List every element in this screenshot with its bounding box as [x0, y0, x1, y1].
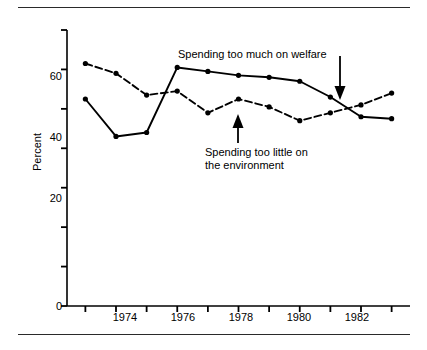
annotation-arrows — [233, 56, 346, 143]
y-axis-ticks — [61, 30, 67, 306]
arrow-welfare — [335, 56, 346, 100]
arrow-environment — [233, 114, 244, 143]
plot-area — [0, 0, 427, 350]
x-axis-ticks — [85, 306, 391, 312]
series-environment-line — [83, 61, 394, 123]
chart-figure: Percent 60 40 20 0 1974 1976 1978 1980 1… — [0, 0, 427, 350]
